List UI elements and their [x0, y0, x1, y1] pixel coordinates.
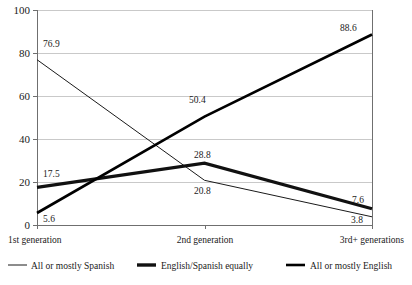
- y-tickmarks: [33, 10, 37, 225]
- label-spanish-gen3: 3.8: [351, 215, 363, 225]
- label-equally-gen1: 17.5: [43, 169, 60, 179]
- chart-canvas: 100 80 60 40 20 0 76.9 20.8 3.8 17.5 28.…: [0, 0, 412, 285]
- ytick-label-80: 80: [19, 47, 31, 59]
- ytick-label-20: 20: [19, 176, 31, 188]
- x-tickmarks: [37, 225, 372, 229]
- x-axis-labels: 1st generation 2nd generation 3rd+ gener…: [8, 235, 404, 245]
- legend-item-english-spanish-equally[interactable]: English/Spanish equally: [137, 261, 253, 271]
- ytick-label-40: 40: [19, 133, 31, 145]
- chart-legend: All or mostly Spanish English/Spanish eq…: [8, 261, 392, 271]
- label-equally-gen2: 28.8: [194, 150, 211, 160]
- ytick-label-0: 0: [25, 219, 31, 231]
- ytick-label-60: 60: [19, 90, 31, 102]
- label-english-gen2: 50.4: [189, 95, 206, 105]
- line-chart: 100 80 60 40 20 0 76.9 20.8 3.8 17.5 28.…: [0, 0, 412, 285]
- label-equally-gen3: 7.6: [352, 195, 364, 205]
- y-axis-labels: 100 80 60 40 20 0: [14, 4, 31, 231]
- xtick-label-gen2: 2nd generation: [177, 235, 234, 245]
- xtick-label-gen1: 1st generation: [8, 235, 62, 245]
- label-english-gen1: 5.6: [43, 214, 55, 224]
- legend-label-1: All or mostly Spanish: [31, 261, 114, 271]
- ytick-label-100: 100: [14, 4, 31, 16]
- legend-label-3: All or mostly English: [310, 261, 392, 271]
- label-english-gen3: 88.6: [340, 23, 357, 33]
- legend-item-all-or-mostly-english[interactable]: All or mostly English: [286, 261, 392, 271]
- legend-item-all-or-mostly-spanish[interactable]: All or mostly Spanish: [8, 261, 114, 271]
- legend-label-2: English/Spanish equally: [161, 261, 253, 271]
- label-spanish-gen1: 76.9: [43, 39, 60, 49]
- xtick-label-gen3: 3rd+ generations: [340, 235, 404, 245]
- label-spanish-gen2: 20.8: [194, 186, 211, 196]
